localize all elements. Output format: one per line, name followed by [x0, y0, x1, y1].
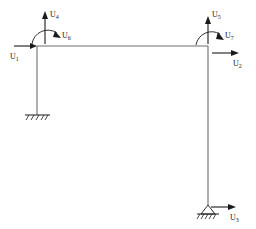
u3-label-sub: 3 [236, 217, 239, 223]
u5-arrowhead [205, 16, 211, 24]
u5-label: U5 [212, 10, 221, 20]
dof-arrow-u1: U1 [10, 43, 37, 62]
u7-label: U7 [225, 31, 234, 41]
u6-label-sub: 6 [68, 35, 71, 41]
u4-label: U4 [50, 10, 59, 20]
u7-label-sub: 7 [231, 35, 234, 41]
u2-label-sub: 2 [239, 63, 242, 69]
dof-arrow-u2: U2 [212, 50, 242, 69]
u6-arrowhead [53, 31, 61, 38]
left-support-hatching [26, 115, 48, 120]
u3-label: U3 [230, 213, 239, 223]
right-support-hatching [197, 214, 216, 219]
dof-arrow-u7: U7 [196, 31, 234, 45]
u2-arrowhead [231, 50, 239, 56]
u5-label-sub: 5 [218, 14, 221, 20]
structural-frame-diagram: U1 U4 U6 U5 [0, 0, 256, 229]
dof-arrow-u6: U6 [32, 30, 71, 44]
u1-arrowhead [30, 43, 37, 49]
u6-label: U6 [62, 31, 71, 41]
frame-members [37, 46, 208, 205]
dof-arrow-u4: U4 [42, 10, 59, 44]
u4-label-sub: 4 [56, 14, 59, 20]
u2-label: U2 [233, 59, 242, 69]
diagram-canvas: U1 U4 U6 U5 [0, 0, 256, 229]
u1-label: U1 [10, 52, 19, 62]
u3-arrowhead [228, 204, 236, 210]
u4-arrowhead [42, 11, 48, 19]
right-support-pin-triangle [201, 205, 215, 214]
u1-label-sub: 1 [16, 56, 19, 62]
u7-arrowhead [216, 32, 224, 40]
left-support [25, 115, 50, 120]
